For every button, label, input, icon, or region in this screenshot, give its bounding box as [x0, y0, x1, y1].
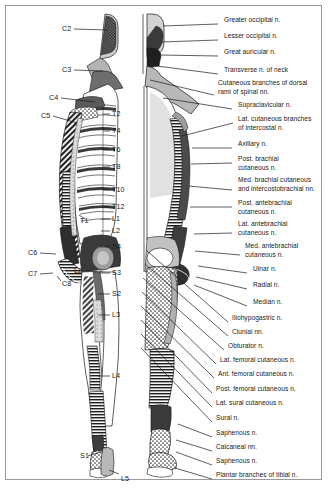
nerve-label-ulnar-n: Ulnar n.: [253, 265, 277, 274]
spinal-level-t10: T10: [112, 185, 125, 194]
nerve-label-line: Saphenous n.: [216, 429, 257, 438]
spinal-level-t2: T2: [112, 109, 121, 118]
nerve-label-line: Ulnar n.: [253, 265, 277, 274]
nerve-label-line: Iliohypogastric n.: [232, 314, 282, 323]
nerve-label-line: Sural n.: [216, 414, 239, 423]
spinal-level-c4: C4: [49, 93, 58, 102]
nerve-label-line: Greater occipital n.: [224, 16, 280, 25]
nerve-label-line: cutaneous n.: [238, 164, 279, 173]
nerve-label-post-brachial: Post. brachialcutaneous n.: [238, 155, 279, 172]
nerve-label-line: Radial n.: [253, 281, 279, 290]
nerve-label-radial-n: Radial n.: [253, 281, 279, 290]
nerve-label-supraclavicular-n: Supraclavicular n.: [238, 101, 291, 110]
nerve-label-lat-sural-cutaneous-n: Lat. sural cutaneous n.: [216, 399, 284, 408]
nerve-label-line: Plantar branches of tibial n.: [216, 471, 297, 480]
spinal-level-s3: S3: [112, 268, 121, 277]
spinal-level-c6: C6: [28, 248, 37, 257]
nerve-label-sural-n: Sural n.: [216, 414, 239, 423]
left-body-figure: [40, 14, 123, 478]
nerve-label-line: Cutaneous branches of dorsal: [218, 79, 307, 88]
nerve-label-obturator-n: Obturator n.: [228, 342, 264, 351]
nerve-label-line: Lat. antebrachial: [238, 220, 288, 229]
spinal-level-s4: S4: [112, 242, 121, 251]
nerve-label-line: Calcaneal nn.: [216, 443, 257, 452]
spinal-level-t12: T12: [112, 202, 125, 211]
spinal-level-l2: L2: [112, 226, 120, 235]
nerve-label-plantar-branches-of-tibial-n: Plantar branches of tibial n.: [216, 471, 297, 480]
spinal-level-l2: L2: [74, 266, 82, 275]
nerve-label-line: Lesser occipital n.: [224, 32, 278, 41]
nerve-label-lesser-occipital-n: Lesser occipital n.: [224, 32, 278, 41]
nerve-label-saphenous-n: Saphenous n.: [216, 429, 257, 438]
spinal-level-t6: T6: [112, 145, 121, 154]
nerve-label-saphenous-n: Saphenous n.: [216, 457, 257, 466]
nerve-label-ant-femoral-cutaneous-n: Ant. femoral cutaneous n.: [218, 370, 294, 379]
nerve-label-med-antebrachial: Med. antebrachialcutaneous n.: [245, 242, 298, 259]
nerve-label-axillary-n: Axillary n.: [238, 140, 267, 149]
nerve-label-line: Saphenous n.: [216, 457, 257, 466]
nerve-label-line: Med. brachial cutaneous: [238, 176, 315, 185]
spinal-level-c3: C3: [62, 65, 71, 74]
nerve-label-cutaneous-branches-of-dorsal: Cutaneous branches of dorsalrami of spin…: [218, 79, 307, 96]
nerve-label-line: Med. antebrachial: [245, 242, 298, 251]
spinal-level-s1: S1: [80, 451, 89, 460]
nerve-label-line: cutaneous n.: [238, 208, 292, 217]
spinal-level-c5: C5: [41, 111, 50, 120]
nerve-label-iliohypogastric-n: Iliohypogastric n.: [232, 314, 282, 323]
nerve-label-line: Obturator n.: [228, 342, 264, 351]
nerve-label-greater-occipital-n: Greater occipital n.: [224, 16, 280, 25]
spinal-level-l3: L3: [112, 310, 120, 319]
nerve-label-lat-antebrachial: Lat. antebrachialcutaneous n.: [238, 220, 288, 237]
spinal-level-t1: T1: [80, 216, 89, 225]
nerve-label-calcaneal-nn: Calcaneal nn.: [216, 443, 257, 452]
spinal-level-t8: T8: [112, 162, 121, 171]
nerve-label-line: Supraclavicular n.: [238, 101, 291, 110]
nerve-label-lat-cutaneous-branches: Lat. cutaneous branchesof intercostal n.: [238, 115, 311, 132]
spinal-level-l1: L1: [112, 214, 120, 223]
nerve-label-line: Great auricular n.: [224, 48, 276, 57]
nerve-label-line: Transverse n. of neck: [224, 66, 288, 75]
spinal-level-c8: C8: [62, 279, 71, 288]
nerve-label-transverse-n-of-neck: Transverse n. of neck: [224, 66, 288, 75]
nerve-label-line: Lat. cutaneous branches: [238, 115, 311, 124]
right-body-figure: [143, 14, 199, 477]
nerve-label-median-n: Median n.: [253, 298, 282, 307]
nerve-label-line: rami of spinal nn.: [218, 88, 307, 97]
nerve-label-line: Axillary n.: [238, 140, 267, 149]
spinal-level-t4: T4: [112, 126, 121, 135]
nerve-label-line: cutaneous n.: [245, 251, 298, 260]
spinal-level-s2: S2: [112, 289, 121, 298]
nerve-label-line: Post. femoral cutaneous n.: [216, 385, 296, 394]
nerve-label-post-femoral-cutaneous-n: Post. femoral cutaneous n.: [216, 385, 296, 394]
nerve-label-clunial-nn: Clunial nn.: [232, 328, 264, 337]
nerve-label-line: Post. antebrachial: [238, 199, 292, 208]
spinal-level-l5: L5: [121, 474, 129, 483]
nerve-label-great-auricular-n: Great auricular n.: [224, 48, 276, 57]
spinal-level-l4: L4: [112, 371, 120, 380]
nerve-label-line: Clunial nn.: [232, 328, 264, 337]
nerve-label-post-antebrachial: Post. antebrachialcutaneous n.: [238, 199, 292, 216]
nerve-label-med-brachial-cutaneous: Med. brachial cutaneousand intercostobra…: [238, 176, 315, 193]
diagram-page: C2C3C4C5C6C7C8T1L2T2T4T6T8T10T12L1L2S4S3…: [0, 0, 329, 495]
nerve-label-line: and intercostobrachial nn.: [238, 185, 315, 194]
nerve-label-line: Lat. femoral cutaneous n.: [220, 356, 296, 365]
nerve-label-line: Ant. femoral cutaneous n.: [218, 370, 294, 379]
nerve-label-line: Post. brachial: [238, 155, 279, 164]
nerve-label-line: Lat. sural cutaneous n.: [216, 399, 284, 408]
nerve-label-line: Median n.: [253, 298, 282, 307]
nerve-label-line: of intercostal n.: [238, 124, 311, 133]
spinal-level-c7: C7: [28, 269, 37, 278]
nerve-label-lat-femoral-cutaneous-n: Lat. femoral cutaneous n.: [220, 356, 296, 365]
spinal-level-c2: C2: [62, 24, 71, 33]
nerve-label-line: cutaneous n.: [238, 229, 288, 238]
